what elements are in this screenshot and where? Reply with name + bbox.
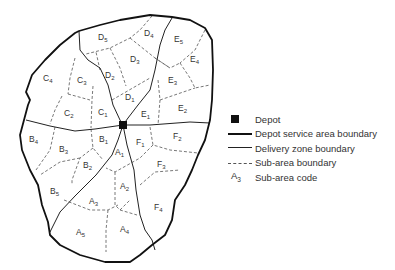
depot-square-icon (228, 114, 252, 124)
code-number: 3 (237, 176, 241, 183)
svg-text:D5: D5 (98, 32, 108, 43)
svg-text:D1: D1 (125, 92, 135, 103)
svg-text:F1: F1 (136, 137, 145, 148)
svg-text:D3: D3 (130, 54, 140, 65)
legend-sub-area: Sub-area boundary (228, 156, 395, 171)
thin-line-icon (228, 143, 252, 153)
svg-text:D2: D2 (105, 70, 115, 81)
legend-delivery-zone: Delivery zone boundary (228, 141, 395, 156)
svg-text:A2: A2 (120, 181, 130, 192)
svg-text:B5: B5 (50, 186, 60, 197)
svg-text:B2: B2 (83, 160, 93, 171)
sub-area-boundaries (36, 16, 210, 252)
depot-service-area-boundary (20, 15, 213, 262)
svg-text:E1: E1 (141, 109, 151, 120)
legend: Depot Depot service area boundary Delive… (228, 112, 395, 185)
dashed-line-icon (228, 158, 252, 168)
svg-text:B1: B1 (99, 134, 109, 145)
thick-line-icon (228, 129, 252, 139)
svg-text:C4: C4 (43, 73, 53, 84)
svg-text:C3: C3 (77, 75, 87, 86)
legend-depot: Depot (228, 112, 395, 127)
svg-text:A1: A1 (115, 147, 125, 158)
legend-service-area: Depot service area boundary (228, 127, 395, 142)
svg-text:D4: D4 (144, 28, 154, 39)
legend-sub-area-label: Sub-area boundary (255, 157, 336, 168)
svg-text:E2: E2 (178, 103, 188, 114)
svg-text:E3: E3 (168, 75, 178, 86)
legend-sub-area-code: A3 Sub-area code (228, 170, 395, 185)
svg-text:C2: C2 (64, 108, 74, 119)
code-example: A3 (228, 172, 252, 182)
svg-text:E5: E5 (174, 34, 184, 45)
svg-text:F3: F3 (157, 159, 166, 170)
legend-delivery-zone-label: Delivery zone boundary (255, 143, 355, 154)
svg-text:A4: A4 (120, 224, 130, 235)
legend-service-area-label: Depot service area boundary (255, 128, 377, 139)
svg-text:E4: E4 (190, 54, 200, 65)
svg-text:F4: F4 (154, 202, 163, 213)
legend-sub-area-code-label: Sub-area code (255, 172, 317, 183)
svg-text:B3: B3 (59, 144, 69, 155)
legend-depot-label: Depot (255, 114, 280, 125)
svg-text:A3: A3 (89, 196, 99, 207)
svg-text:A5: A5 (76, 227, 86, 238)
svg-text:C1: C1 (98, 107, 108, 118)
depot-marker (119, 121, 127, 129)
svg-text:B4: B4 (29, 134, 39, 145)
svg-text:F2: F2 (173, 131, 182, 142)
